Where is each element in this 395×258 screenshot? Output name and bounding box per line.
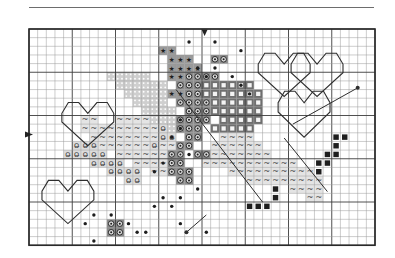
- oh-symbol-icon: O̶: [135, 168, 140, 176]
- wave-symbol-icon: ~: [281, 159, 288, 168]
- square-symbol-icon: [247, 100, 251, 104]
- wave-symbol-icon: ~: [82, 115, 89, 124]
- square-symbol-icon: [247, 83, 251, 87]
- dot-stitch: [196, 187, 199, 190]
- wave-symbol-icon: ~: [134, 159, 141, 168]
- brick-cell: [150, 90, 159, 99]
- dot-stitch: [179, 196, 182, 199]
- square-symbol-icon: [256, 92, 260, 96]
- square-symbol-icon: [256, 118, 260, 122]
- brick-cell: [133, 72, 142, 81]
- square-symbol-icon: [230, 126, 234, 130]
- wave-symbol-icon: ~: [246, 159, 253, 168]
- dark-square-icon: [316, 169, 321, 174]
- wave-symbol-icon: ~: [134, 141, 141, 150]
- dot-stitch: [187, 153, 190, 156]
- oh-symbol-icon: O̶: [91, 160, 96, 168]
- wave-symbol-icon: ~: [108, 133, 115, 142]
- wave-symbol-icon: ~: [151, 159, 158, 168]
- square-symbol-icon: [230, 92, 234, 96]
- wave-symbol-icon: ~: [229, 141, 236, 150]
- wave-symbol-icon: ~: [298, 185, 305, 194]
- wave-symbol-icon: ~: [125, 150, 132, 159]
- dot-stitch: [153, 205, 156, 208]
- brick-cell: [141, 90, 150, 99]
- brick-cell: [141, 107, 150, 116]
- wave-symbol-icon: ~: [255, 141, 262, 150]
- wave-symbol-icon: ~: [238, 141, 245, 150]
- dark-square-icon: [333, 152, 338, 157]
- wave-symbol-icon: ~: [255, 176, 262, 185]
- brick-cell: [150, 98, 159, 107]
- oh-symbol-icon: O̶: [100, 160, 105, 168]
- brick-cell: [141, 72, 150, 81]
- square-symbol-icon: [222, 118, 226, 122]
- wave-symbol-icon: ~: [220, 133, 227, 142]
- wave-symbol-icon: ~: [116, 124, 123, 133]
- heart-top-right-2-outline: [291, 53, 343, 96]
- wave-symbol-icon: ~: [91, 115, 98, 124]
- wave-symbol-icon: ~: [298, 167, 305, 176]
- wave-symbol-icon: ~: [151, 133, 158, 142]
- oh-symbol-icon: O̶: [100, 151, 105, 159]
- dark-square-icon: [325, 160, 330, 165]
- brick-cell: [159, 107, 168, 116]
- square-symbol-icon: [222, 92, 226, 96]
- wave-symbol-icon: ~: [229, 167, 236, 176]
- star-symbol-icon: ★: [177, 73, 183, 81]
- dot-stitch: [109, 213, 112, 216]
- wave-symbol-icon: ~: [108, 141, 115, 150]
- dark-square-icon: [333, 143, 338, 148]
- wave-symbol-icon: ~: [281, 167, 288, 176]
- dark-square-icon: [273, 195, 278, 200]
- brick-cell: [150, 81, 159, 90]
- dot-stitch: [179, 222, 182, 225]
- star-symbol-icon: ★: [169, 47, 175, 55]
- star-symbol-icon: ★: [177, 65, 183, 73]
- dot-stitch: [84, 222, 87, 225]
- wave-symbol-icon: ~: [91, 124, 98, 133]
- dark-square-icon: [342, 134, 347, 139]
- wave-symbol-icon: ~: [307, 167, 314, 176]
- square-symbol-icon: [230, 100, 234, 104]
- dot-stitch: [179, 118, 182, 121]
- brick-cell: [150, 116, 159, 125]
- oh-symbol-icon: O̶: [161, 125, 166, 133]
- square-symbol-icon: [239, 126, 243, 130]
- brick-cell: [116, 72, 125, 81]
- wave-symbol-icon: ~: [142, 150, 149, 159]
- square-symbol-icon: [247, 118, 251, 122]
- brick-cell: [167, 107, 176, 116]
- square-symbol-icon: [247, 109, 251, 113]
- wave-symbol-icon: ~: [238, 133, 245, 142]
- dot-stitch: [239, 84, 242, 87]
- wave-symbol-icon: ~: [307, 176, 314, 185]
- oh-symbol-icon: O̶: [109, 168, 114, 176]
- dot-stitch: [205, 231, 208, 234]
- wave-symbol-icon: ~: [289, 176, 296, 185]
- oh-symbol-icon: O̶: [117, 160, 122, 168]
- dot-stitch: [144, 231, 147, 234]
- brick-cell: [159, 81, 168, 90]
- square-symbol-icon: [213, 109, 217, 113]
- square-symbol-icon: [204, 83, 208, 87]
- brick-cell: [141, 81, 150, 90]
- brick-cell: [107, 72, 116, 81]
- dark-square-icon: [325, 152, 330, 157]
- star-symbol-icon: ★: [169, 65, 175, 73]
- wave-symbol-icon: ~: [160, 167, 167, 176]
- dot-stitch: [127, 222, 130, 225]
- wave-symbol-icon: ~: [289, 159, 296, 168]
- oh-symbol-icon: O̶: [83, 151, 88, 159]
- oh-symbol-icon: O̶: [135, 177, 140, 185]
- wave-symbol-icon: ~: [307, 185, 314, 194]
- dark-square-icon: [273, 186, 278, 191]
- wave-symbol-icon: ~: [134, 133, 141, 142]
- wave-symbol-icon: ~: [212, 159, 219, 168]
- dot-stitch: [187, 40, 190, 43]
- dot-stitch: [213, 66, 216, 69]
- wave-symbol-icon: ~: [203, 159, 210, 168]
- oh-symbol-icon: O̶: [117, 168, 122, 176]
- dark-square-icon: [333, 134, 338, 139]
- wave-symbol-icon: ~: [255, 167, 262, 176]
